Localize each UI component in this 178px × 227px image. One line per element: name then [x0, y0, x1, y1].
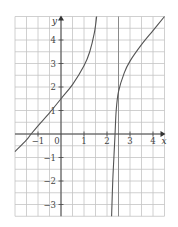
x-axis-label: x	[162, 136, 167, 146]
x-tick-label: 1	[81, 136, 86, 146]
x-tick-label: 2	[104, 136, 109, 146]
x-tick-label: 0	[54, 136, 59, 146]
y-tick-label: 3	[51, 59, 56, 69]
x-tick-label: 3	[127, 136, 132, 146]
x-tick-label: 4	[150, 136, 155, 146]
y-tick-label: −2	[43, 176, 56, 186]
y-tick-label: −3	[43, 200, 56, 210]
x-tick-label: −1	[32, 136, 45, 146]
function-graph: −1012344321−1−2−3 x y	[0, 0, 178, 227]
y-tick-label: 2	[51, 82, 56, 92]
y-tick-label: −1	[43, 153, 56, 163]
y-tick-label: 4	[51, 35, 56, 45]
y-axis-label: y	[51, 16, 58, 26]
